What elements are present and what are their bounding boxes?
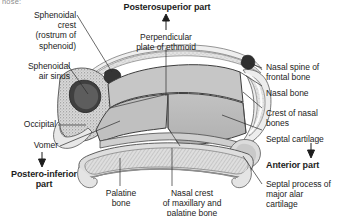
label-postero-inferior-part: Postero-inferior part	[0, 169, 88, 189]
label-perpendicular-plate-of-ethmoid: Perpendicular plate of ethmoid	[110, 32, 222, 52]
label-nasal-bone: Nasal bone	[266, 88, 342, 98]
label-nasal-crest-of-maxillary-and-palatine-bone: Nasal crest of maxillary and palatine bo…	[142, 188, 242, 216]
label-posterosuperior-part: Posterosuperior part	[106, 2, 228, 12]
label-septal-process-of-major-alar-cartilage: Septal process of major alar cartilage	[266, 179, 343, 210]
label-septal-cartilage: Septal cartilage	[266, 134, 343, 144]
label-nasal-spine-of-frontal-bone: Nasal spine of frontal bone	[266, 62, 342, 82]
label-anterior-part: Anterior part	[266, 160, 343, 170]
label-vomer: Vomer	[2, 140, 58, 150]
label-palatine-bone: Palatine bone	[94, 188, 148, 208]
label-crest-of-nasal-bones: Crest of nasal bones	[266, 108, 342, 128]
label-occipital: Occipital	[2, 119, 56, 129]
label-sphenoidal-air-sinus: Sphenoidal air sinus	[2, 61, 70, 81]
anatomy-figure-nasal-septum: nose:	[0, 0, 343, 216]
label-sphenoidal-crest: Sphenoidal crest (rostrum of sphenoid)	[2, 10, 76, 51]
septum-body	[54, 45, 271, 188]
